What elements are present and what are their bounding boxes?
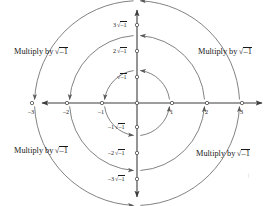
annotation-bottom-left-text: Multiply by	[14, 146, 53, 155]
annotation-bottom-left-radicand: –1	[59, 146, 69, 155]
x-tick-label-minus2: –2	[63, 109, 69, 115]
tick-dot-x-minus1	[100, 101, 103, 104]
radical-sign-top-left: –1	[53, 47, 68, 56]
radical-sign-minus1i: –1	[114, 123, 125, 130]
x-tick-label-2: 2	[205, 109, 208, 115]
arc-r2-q4	[140, 107, 204, 171]
tick-dot-x-3	[240, 101, 243, 104]
tick-dot-y-2	[135, 49, 138, 52]
y-tick-radicand-3i: –1	[120, 21, 127, 28]
y-tick-radicand-minus3i: –1	[118, 175, 125, 182]
diagram-canvas	[0, 0, 277, 206]
x-tick-label-minus1: –1	[98, 109, 104, 115]
tick-dot-x-1	[170, 101, 173, 104]
y-tick-radicand-2i: –1	[120, 47, 127, 54]
arc-r2-q1	[140, 36, 204, 100]
tick-dot-y-minus1	[135, 125, 138, 128]
y-tick-label-3i: 3–1	[113, 21, 127, 28]
y-tick-label-minus3i: –3–1	[108, 175, 125, 182]
annotation-top-left-radicand: –1	[59, 47, 69, 56]
arc-r1-q3	[105, 106, 134, 135]
annotation-bottom-right-radicand: –1	[241, 149, 251, 158]
annotation-top-left-text: Multiply by	[14, 47, 53, 56]
y-tick-label-minus1i: –1–1	[108, 123, 125, 130]
tick-dot-x-minus3	[30, 101, 33, 104]
x-tick-label-minus3: –3	[28, 109, 34, 115]
radical-sign-1i: –1	[116, 73, 127, 80]
tick-dot-y-1	[135, 75, 138, 78]
tick-dot-y-3	[135, 23, 138, 26]
radical-sign-bottom-left: –1	[53, 146, 68, 155]
y-tick-radicand-minus1i: –1	[118, 123, 125, 130]
radical-sign-minus2i: –1	[114, 149, 125, 156]
annotation-bottom-right-text: Multiply by	[196, 149, 235, 158]
tick-dot-x-2	[205, 101, 208, 104]
x-tick-label-3: 3	[240, 109, 243, 115]
y-tick-label-1i: –1	[116, 73, 127, 80]
arc-r2-q2	[70, 36, 134, 100]
annotation-top-right-radicand: –1	[243, 47, 253, 56]
y-tick-radicand-1i: –1	[120, 73, 127, 80]
y-tick-radicand-minus2i: –1	[118, 149, 125, 156]
radical-sign-minus3i: –1	[114, 175, 125, 182]
annotation-top-right: Multiply by–1	[198, 47, 252, 56]
y-tick-label-2i: 2–1	[113, 47, 127, 54]
tick-dot-x-minus2	[65, 101, 68, 104]
annotation-bottom-right: Multiply by–1	[196, 149, 250, 158]
scan-artifact-mark: ⌇	[247, 172, 250, 179]
tick-dot-origin	[135, 101, 138, 104]
radical-sign-3i: –1	[116, 21, 127, 28]
annotation-bottom-left: Multiply by–1	[14, 146, 68, 155]
arc-r1-q4	[140, 107, 169, 136]
x-tick-label-1: 1	[170, 109, 173, 115]
complex-plane-diagram: –3 –2 –1 1 2 3 3–1 2–1 –1 –1–1 –2–1 –3–1…	[0, 0, 277, 206]
annotation-top-left: Multiply by–1	[14, 47, 68, 56]
annotation-top-right-text: Multiply by	[198, 47, 237, 56]
radical-sign-top-right: –1	[237, 47, 252, 56]
arc-r1-q1	[140, 71, 169, 100]
arc-r2-q3	[70, 106, 134, 170]
tick-dot-y-minus2	[135, 151, 138, 154]
y-tick-label-minus2i: –2–1	[108, 149, 125, 156]
radical-sign-2i: –1	[116, 47, 127, 54]
radical-sign-bottom-right: –1	[235, 149, 250, 158]
tick-dot-y-minus3	[135, 177, 138, 180]
